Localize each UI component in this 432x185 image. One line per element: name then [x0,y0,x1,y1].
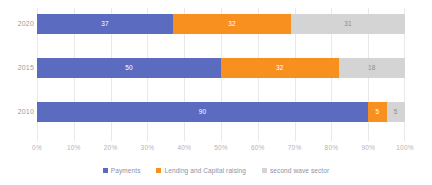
bar-segment-payments-2020[interactable]: 37 [37,14,173,34]
legend-item-label: second wave sector [270,167,329,174]
bar-segment-lending-2015[interactable]: 32 [221,58,339,78]
bar-value-label: 5 [375,109,379,116]
table-row: 37 32 31 [37,14,405,34]
bar-value-label: 37 [101,21,109,28]
axis-tick-label: 60% [251,144,265,151]
legend: PaymentsLending and Capital raisingsecon… [0,167,432,174]
legend-swatch-icon [262,168,267,173]
axis-label-category-2015: 2015 [8,64,34,71]
bar-segment-payments-2015[interactable]: 50 [37,58,221,78]
bar-segment-payments-2010[interactable]: 90 [37,102,368,122]
bar-value-label: 18 [368,65,376,72]
bar-segment-second-wave-2015[interactable]: 18 [339,58,405,78]
bar-value-label: 31 [344,21,352,28]
legend-swatch-icon [103,168,108,173]
bar-segment-lending-2010[interactable]: 5 [368,102,386,122]
bar-segment-second-wave-2010[interactable]: 5 [387,102,405,122]
bar-segment-lending-2020[interactable]: 32 [173,14,291,34]
axis-tick-label: 90% [361,144,375,151]
axis-label-category-2020: 2020 [8,20,34,27]
axis-tick-label: 40% [177,144,191,151]
bar-value-label: 50 [125,65,133,72]
x-axis: 0%10%20%30%40%50%60%70%80%90%100% [37,144,405,156]
axis-tick-label: 0% [32,144,42,151]
axis-tick-label: 100% [396,144,413,151]
legend-swatch-icon [156,168,161,173]
axis-label-category-2010: 2010 [8,108,34,115]
bar-value-label: 90 [199,109,207,116]
bar-value-label: 32 [276,65,284,72]
bar-value-label: 5 [394,109,398,116]
table-row: 50 32 18 [37,58,405,78]
axis-tick-label: 10% [67,144,81,151]
stacked-bar-chart: 37 32 31 50 32 18 90 [0,0,432,185]
legend-item[interactable]: Lending and Capital raising [156,167,245,174]
legend-item-label: Lending and Capital raising [164,167,245,174]
legend-item-label: Payments [111,167,141,174]
table-row: 90 5 5 [37,102,405,122]
axis-tick-label: 70% [288,144,302,151]
bar-value-label: 32 [228,21,236,28]
bar-segment-second-wave-2020[interactable]: 31 [291,14,405,34]
legend-item[interactable]: Payments [103,167,141,174]
axis-tick-label: 80% [325,144,339,151]
legend-item[interactable]: second wave sector [262,167,329,174]
axis-tick-label: 50% [214,144,228,151]
axis-tick-label: 30% [141,144,155,151]
plot-area: 37 32 31 50 32 18 90 [37,8,405,141]
axis-tick-label: 20% [104,144,118,151]
